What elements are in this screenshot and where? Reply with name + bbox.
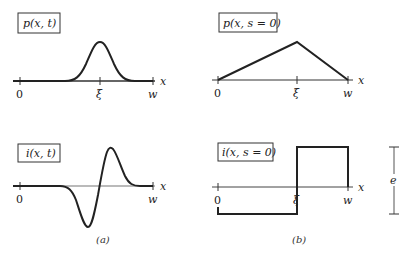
tick-label-xi: ξ xyxy=(293,87,300,100)
tick-label-w: w xyxy=(343,194,353,207)
panel-label: p(x, t) xyxy=(23,17,56,30)
panel-a-bottom: i(x, t) x 0 w (a) xyxy=(13,144,167,245)
gaussian-curve xyxy=(13,42,153,81)
axis-label: x xyxy=(358,74,365,87)
tick-label-w: w xyxy=(343,87,353,100)
axis-label: x xyxy=(160,180,167,193)
tick-label-0: 0 xyxy=(214,194,221,207)
tick-label-w: w xyxy=(148,88,158,101)
panel-label: p(x, s = 0) xyxy=(223,17,281,30)
panel-b-bottom: i(x, s = 0) x 0 ξ w e (b) xyxy=(212,143,399,245)
axis-label: x xyxy=(160,75,167,88)
tick-label-0: 0 xyxy=(16,193,23,206)
panel-b-top: p(x, s = 0) x 0 ξ w xyxy=(212,13,365,100)
triangle-curve xyxy=(218,42,348,80)
tick-label-w: w xyxy=(148,193,158,206)
panel-label: i(x, t) xyxy=(26,147,56,160)
panel-label: i(x, s = 0) xyxy=(222,146,276,159)
scale-label-e: e xyxy=(390,174,397,187)
tick-label-0: 0 xyxy=(16,88,23,101)
axis-label: x xyxy=(358,181,365,194)
diagram-canvas: p(x, t) x 0 ξ w p(x, s = 0) x 0 ξ w i(x,… xyxy=(0,0,411,256)
tick-label-xi: ξ xyxy=(96,88,103,101)
caption-b: (b) xyxy=(292,234,306,245)
tick-label-0: 0 xyxy=(214,87,221,100)
caption-a: (a) xyxy=(96,234,110,245)
panel-a-top: p(x, t) x 0 ξ w xyxy=(13,13,167,101)
